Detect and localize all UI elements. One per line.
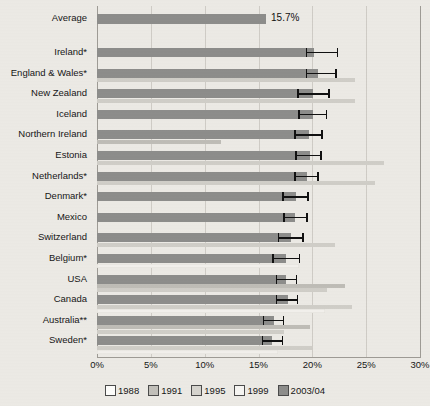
error-bar-cap-low bbox=[295, 151, 297, 160]
bar-group bbox=[97, 233, 420, 251]
x-tick-label: 20% bbox=[303, 359, 322, 370]
error-bar-line bbox=[297, 93, 329, 94]
legend-swatch-1988 bbox=[105, 385, 116, 396]
error-bar-cap-low bbox=[262, 336, 264, 345]
error-bar bbox=[298, 110, 327, 119]
bar-2003-04 bbox=[97, 151, 310, 160]
category-label: Mexico bbox=[57, 212, 87, 222]
bar-1999 bbox=[97, 264, 299, 268]
error-bar bbox=[278, 233, 304, 242]
legend-label: 2003/04 bbox=[291, 385, 325, 396]
category-label: Sweden* bbox=[49, 335, 87, 345]
legend-label: 1999 bbox=[247, 385, 268, 396]
gridline bbox=[420, 6, 421, 358]
error-bar bbox=[276, 295, 299, 304]
bar-group bbox=[97, 316, 420, 334]
bar-1995 bbox=[97, 243, 335, 247]
error-bar bbox=[263, 316, 285, 325]
bar-2003-04 bbox=[97, 213, 295, 222]
error-bar-cap-low bbox=[283, 213, 285, 222]
error-bar-line bbox=[276, 279, 298, 280]
error-bar-cap-low bbox=[294, 172, 296, 181]
category-label: Belgium* bbox=[49, 253, 87, 263]
bar-chart: 15.7% AverageIreland*England & Wales*New… bbox=[0, 0, 430, 406]
error-bar-cap-high bbox=[320, 151, 322, 160]
error-bar-cap-high bbox=[326, 110, 328, 119]
bar-group bbox=[97, 192, 420, 210]
legend-item-1988[interactable]: 1988 bbox=[105, 385, 139, 396]
legend-swatch-2003-04 bbox=[278, 385, 289, 396]
error-bar-cap-high bbox=[302, 233, 304, 242]
error-bar-cap-low bbox=[278, 233, 280, 242]
category-label-column: AverageIreland*England & Wales*New Zeala… bbox=[0, 6, 92, 358]
error-bar-cap-low bbox=[294, 130, 296, 139]
error-bar-cap-high bbox=[317, 172, 319, 181]
error-bar-cap-high bbox=[299, 254, 301, 263]
category-label: New Zealand bbox=[31, 88, 87, 98]
error-bar-line bbox=[276, 299, 299, 300]
bar-2003-04 bbox=[97, 48, 314, 57]
error-bar bbox=[272, 254, 300, 263]
bar-group bbox=[97, 151, 420, 169]
error-bar-line bbox=[272, 258, 300, 259]
error-bar-line bbox=[298, 114, 327, 115]
bar-1999 bbox=[97, 309, 325, 313]
bar-2003-04 bbox=[97, 69, 318, 78]
error-bar-cap-high bbox=[306, 213, 308, 222]
bar-group bbox=[97, 69, 420, 87]
legend-swatch-1999 bbox=[234, 385, 245, 396]
error-bar-cap-low bbox=[272, 254, 274, 263]
error-bar-cap-high bbox=[337, 48, 339, 57]
error-bar-cap-low bbox=[306, 69, 308, 78]
bar-2003-04 bbox=[97, 130, 309, 139]
bar-1995 bbox=[97, 288, 327, 292]
error-bar bbox=[283, 213, 308, 222]
category-label: Denmark* bbox=[45, 191, 87, 201]
bar-2003-04 bbox=[97, 89, 313, 98]
error-bar-cap-low bbox=[276, 275, 278, 284]
bar-group bbox=[97, 130, 420, 148]
legend-item-1995[interactable]: 1995 bbox=[191, 385, 225, 396]
legend-item-1991[interactable]: 1991 bbox=[148, 385, 182, 396]
x-tick-label: 0% bbox=[90, 359, 104, 370]
legend-label: 1988 bbox=[118, 385, 139, 396]
bar-2003-04 bbox=[97, 295, 288, 304]
category-label: Northern Ireland bbox=[18, 129, 87, 139]
bar-group bbox=[97, 254, 420, 272]
bar-group bbox=[97, 110, 420, 128]
error-bar bbox=[306, 48, 338, 57]
legend-item-2003-04[interactable]: 2003/04 bbox=[278, 385, 325, 396]
bar-group bbox=[97, 172, 420, 190]
bar-group bbox=[97, 275, 420, 293]
error-bar bbox=[294, 130, 323, 139]
error-bar-cap-high bbox=[328, 89, 330, 98]
x-tick-label: 15% bbox=[249, 359, 268, 370]
category-label: Estonia bbox=[55, 150, 87, 160]
legend-swatch-1995 bbox=[191, 385, 202, 396]
error-bar-cap-high bbox=[321, 130, 323, 139]
error-bar bbox=[262, 336, 284, 345]
legend-label: 1991 bbox=[161, 385, 182, 396]
bar-group bbox=[97, 48, 420, 66]
error-bar bbox=[294, 172, 319, 181]
error-bar bbox=[297, 89, 329, 98]
bar-2003-04 bbox=[97, 192, 296, 201]
average-value-label: 15.7% bbox=[271, 12, 299, 23]
error-bar-cap-high bbox=[335, 69, 337, 78]
category-label: Australia** bbox=[43, 315, 87, 325]
error-bar-line bbox=[262, 340, 284, 341]
category-label: Iceland bbox=[56, 109, 87, 119]
error-bar bbox=[276, 275, 298, 284]
legend-item-1999[interactable]: 1999 bbox=[234, 385, 268, 396]
bar-1995 bbox=[97, 181, 375, 185]
error-bar-line bbox=[263, 320, 285, 321]
x-tick-label: 25% bbox=[357, 359, 376, 370]
error-bar-cap-low bbox=[306, 48, 308, 57]
bar-group bbox=[97, 336, 420, 354]
error-bar-cap-high bbox=[282, 336, 284, 345]
category-label: USA bbox=[67, 274, 87, 284]
category-label: Ireland* bbox=[54, 47, 87, 57]
average-row-label: Average bbox=[52, 13, 87, 23]
bar-1995 bbox=[97, 78, 355, 82]
error-bar-line bbox=[295, 155, 322, 156]
